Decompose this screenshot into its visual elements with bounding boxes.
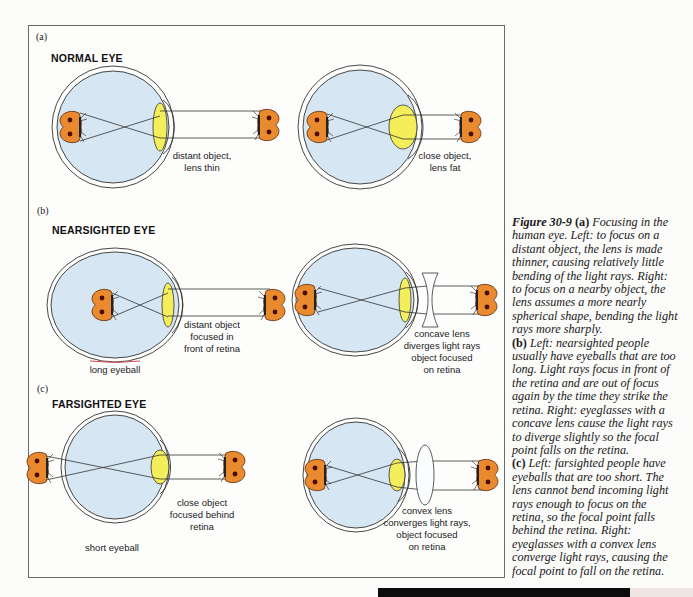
label-line: focused behind	[162, 509, 242, 521]
caption-line: behind the retina. Right:	[512, 524, 693, 537]
caption-run: usually have eyeballs that are too	[512, 349, 676, 363]
title-normal-eye: NORMAL EYE	[51, 52, 123, 64]
caption-run: focal point to fall on the retina.	[512, 564, 664, 578]
caption-run: point falls on the retina.	[512, 443, 629, 457]
caption-run: converge light rays, causing the	[512, 550, 668, 564]
caption-run: Figure 30-9	[512, 215, 575, 229]
caption-line: concave lens cause the light rays	[512, 417, 693, 430]
caption-line: to focus on a nearby object, the	[512, 283, 693, 296]
caption-run: concave lens cause the light rays	[512, 416, 673, 430]
label-convex-lens: convex lens converges light rays, object…	[375, 505, 479, 553]
caption-line: eyeglasses with a convex lens	[512, 538, 693, 551]
label-line: on retina	[392, 364, 492, 376]
caption-run: spherical shape, bending the light	[512, 309, 678, 323]
page-edge-tint	[630, 588, 693, 597]
caption-run: to diverge slightly so the focal	[512, 430, 659, 444]
page-edge-bar	[378, 588, 630, 597]
label-line: retina	[162, 521, 242, 533]
convex-lens	[416, 445, 434, 505]
label-line: front of retina	[172, 343, 252, 355]
title-farsighted-eye: FARSIGHTED EYE	[52, 398, 146, 410]
label-line: diverges light rays	[392, 340, 492, 352]
caption-run: (a)	[575, 215, 592, 229]
caption-run: bending of the light rays. Right:	[512, 269, 668, 283]
caption-run: Focusing in the	[592, 215, 668, 229]
caption-line: lens cannot bend incoming light	[512, 484, 693, 497]
label-close-object-lens-fat: close object, lens fat	[409, 150, 481, 174]
caption-line: point falls on the retina.	[512, 444, 693, 457]
caption-line: to diverge slightly so the focal	[512, 431, 693, 444]
label-line: distant object	[172, 319, 252, 331]
caption-line: again by the time they strike the	[512, 390, 693, 403]
figure-caption: Figure 30-9 (a) Focusing in thehuman eye…	[512, 216, 693, 578]
part-marker-a: (a)	[36, 31, 47, 42]
caption-line: thinner, causing relatively little	[512, 256, 693, 269]
caption-line: the retina and are out of focus	[512, 377, 693, 390]
label-line: lens thin	[162, 162, 242, 174]
caption-line: eyeballs that are too short. The	[512, 471, 693, 484]
label-line: concave lens	[392, 328, 492, 340]
caption-run: (b)	[512, 336, 530, 350]
caption-run: Left: farsighted people have	[529, 456, 666, 470]
caption-run: human eye. Left: to focus on a	[512, 228, 659, 242]
caption-run: lens cannot bend incoming light	[512, 483, 668, 497]
caption-run: distant object, the lens is made	[512, 242, 662, 256]
caption-line: retina. Right: eyeglasses with a	[512, 404, 693, 417]
caption-run: thinner, causing relatively little	[512, 255, 664, 269]
caption-line: converge light rays, causing the	[512, 551, 693, 564]
caption-line: rays enough to focus on the	[512, 498, 693, 511]
label-line: close object	[162, 497, 242, 509]
label-line: distant object,	[162, 150, 242, 162]
label-focused-behind: close object focused behind retina	[162, 497, 242, 533]
caption-run: retina, so the focal point falls	[512, 510, 655, 524]
caption-line: focal point to fall on the retina.	[512, 565, 693, 578]
label-short-eyeball: short eyeball	[72, 542, 152, 554]
caption-line: rays more sharply.	[512, 323, 693, 336]
label-focused-in-front: distant object focused in front of retin…	[172, 319, 252, 355]
label-concave-lens: concave lens diverges light rays object …	[392, 328, 492, 376]
caption-line: bending of the light rays. Right:	[512, 270, 693, 283]
caption-line: human eye. Left: to focus on a	[512, 229, 693, 242]
part-marker-c: (c)	[37, 383, 48, 394]
concave-lens	[422, 273, 438, 327]
caption-line: retina, so the focal point falls	[512, 511, 693, 524]
caption-run: Left: nearsighted people	[530, 336, 649, 350]
label-line: object focused	[375, 529, 479, 541]
caption-run: eyeglasses with a convex lens	[512, 537, 656, 551]
label-distant-object-lens-thin: distant object, lens thin	[162, 150, 242, 174]
caption-run: long. Light rays focus in front of	[512, 362, 670, 376]
part-marker-b: (b)	[37, 205, 49, 216]
caption-line: distant object, the lens is made	[512, 243, 693, 256]
label-line: on retina	[375, 541, 479, 553]
caption-line: lens assumes a more nearly	[512, 296, 693, 309]
caption-run: rays enough to focus on the	[512, 497, 646, 511]
caption-line: spherical shape, bending the light	[512, 310, 693, 323]
label-line: converges light rays,	[375, 517, 479, 529]
caption-line: (b) Left: nearsighted people	[512, 337, 693, 350]
label-line: object focused	[392, 352, 492, 364]
caption-run: retina. Right: eyeglasses with a	[512, 403, 665, 417]
label-line: convex lens	[375, 505, 479, 517]
caption-run: behind the retina. Right:	[512, 523, 631, 537]
caption-run: eyeballs that are too short. The	[512, 470, 664, 484]
label-long-eyeball: long eyeball	[75, 364, 155, 376]
caption-line: long. Light rays focus in front of	[512, 363, 693, 376]
label-line: lens fat	[409, 162, 481, 174]
label-line: focused in	[172, 331, 252, 343]
caption-line: (c) Left: farsighted people have	[512, 457, 693, 470]
caption-run: rays more sharply.	[512, 322, 603, 336]
caption-run: (c)	[512, 456, 529, 470]
caption-run: lens assumes a more nearly	[512, 295, 646, 309]
label-line: close object,	[409, 150, 481, 162]
caption-line: Figure 30-9 (a) Focusing in the	[512, 216, 693, 229]
title-nearsighted-eye: NEARSIGHTED EYE	[52, 224, 155, 236]
caption-run: again by the time they strike the	[512, 389, 668, 403]
caption-run: the retina and are out of focus	[512, 376, 659, 390]
caption-line: usually have eyeballs that are too	[512, 350, 693, 363]
caption-run: to focus on a nearby object, the	[512, 282, 665, 296]
